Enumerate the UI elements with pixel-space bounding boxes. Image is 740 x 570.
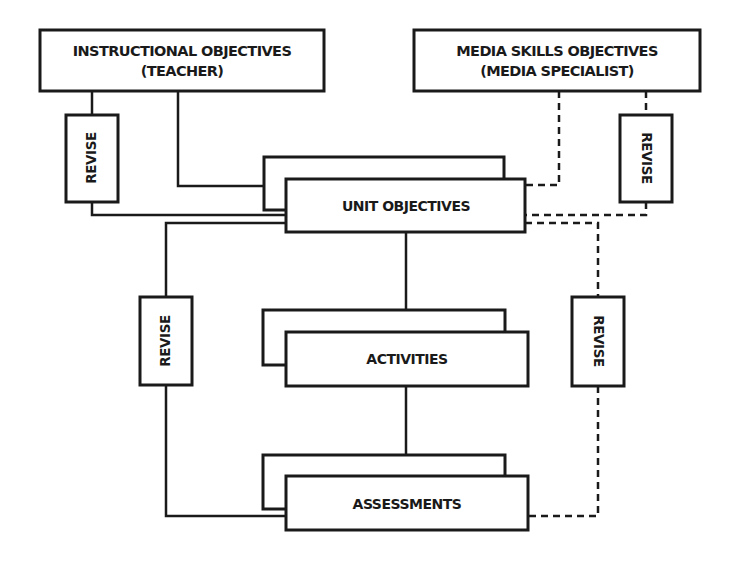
revise-box-mid-right: REVISE [572, 297, 624, 386]
media-skills-objectives-box: MEDIA SKILLS OBJECTIVES (MEDIA SPECIALIS… [414, 30, 700, 91]
instructional-objectives-owner: (TEACHER) [141, 63, 224, 79]
instructional-objectives-box: INSTRUCTIONAL OBJECTIVES (TEACHER) [40, 30, 324, 91]
media-skills-objectives-owner: (MEDIA SPECIALIST) [480, 63, 634, 79]
unit-objectives-label: UNIT OBJECTIVES [342, 198, 470, 214]
revise-label: REVISE [157, 315, 173, 367]
revise-box-top-left: REVISE [66, 115, 118, 202]
revise-label: REVISE [639, 132, 655, 184]
assessments-label: ASSESSMENTS [353, 496, 462, 512]
media-skills-objectives-title: MEDIA SKILLS OBJECTIVES [456, 43, 658, 59]
flow-diagram: INSTRUCTIONAL OBJECTIVES (TEACHER) MEDIA… [0, 0, 740, 570]
activities-label: ACTIVITIES [366, 351, 448, 367]
revise-label: REVISE [83, 132, 99, 184]
instructional-objectives-title: INSTRUCTIONAL OBJECTIVES [73, 43, 292, 59]
assessments-box: ASSESSMENTS [263, 455, 528, 530]
revise-box-top-right: REVISE [620, 115, 672, 202]
revise-box-mid-left: REVISE [140, 297, 192, 385]
activities-box: ACTIVITIES [263, 310, 528, 386]
unit-objectives-box: UNIT OBJECTIVES [264, 157, 525, 232]
revise-label: REVISE [591, 315, 607, 367]
